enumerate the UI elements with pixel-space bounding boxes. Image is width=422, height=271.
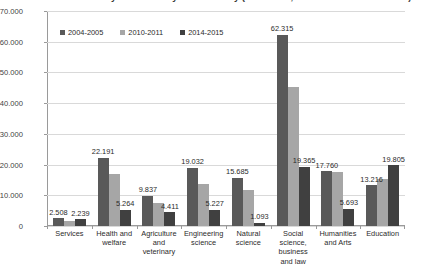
- bar: [164, 212, 175, 226]
- bar: [377, 179, 388, 226]
- bar-data-label: 5.264: [116, 199, 135, 208]
- bar-data-label: 62.315: [271, 24, 294, 33]
- bar-group-bars: [316, 11, 361, 226]
- bar: [232, 178, 243, 226]
- bar-data-label: 9.837: [139, 185, 158, 194]
- x-axis-category-label: Education: [360, 229, 405, 271]
- bar-group-bars: [92, 11, 137, 226]
- bar-data-label: 19.032: [181, 157, 204, 166]
- bar: [53, 218, 64, 226]
- bar-group-bars: [226, 11, 271, 226]
- y-axis-tick-label: 60.000: [0, 38, 23, 47]
- y-axis-tick-label: 20.000: [0, 161, 23, 170]
- bar: [277, 35, 288, 226]
- bar: [321, 171, 332, 226]
- bar-data-label: 19.805: [382, 155, 405, 164]
- bar: [366, 185, 377, 226]
- bar-group: 2.5082.239: [47, 11, 92, 226]
- bar: [64, 221, 75, 226]
- bar-group-bars: [47, 11, 92, 226]
- bar-chart: Graduates from tertiary education by fie…: [0, 0, 422, 271]
- bar-data-label: 2.508: [49, 208, 68, 217]
- bar-group-bars: [271, 11, 316, 226]
- bar: [388, 165, 399, 226]
- bar-data-label: 15.685: [226, 167, 249, 176]
- x-axis-category-label: Social science, business and law: [271, 229, 316, 271]
- bar-data-label: 4.411: [161, 202, 179, 211]
- y-axis-tick-label: 50.000: [0, 68, 23, 77]
- bar-data-label: 19.365: [293, 156, 316, 165]
- x-axis-category-label: Natural science: [226, 229, 271, 271]
- bar-group-bars: [181, 11, 226, 226]
- y-axis-tick-label: 70.000: [0, 7, 23, 16]
- bar-group-bars: [360, 11, 405, 226]
- bar-group: 17.7605.693: [316, 11, 361, 226]
- bar: [343, 209, 354, 226]
- x-axis-category-label: Services: [47, 229, 92, 271]
- bar: [120, 210, 131, 226]
- plot-area: 70.00060.00050.00040.00030.00020.00010.0…: [47, 11, 405, 226]
- bar-group: 13.21619.805: [360, 11, 405, 226]
- bar: [209, 210, 220, 226]
- y-axis-tick-label: 40.000: [0, 99, 23, 108]
- bar-data-label: 5.693: [340, 198, 359, 207]
- bar: [187, 168, 198, 226]
- bar-data-label: 5.227: [205, 199, 224, 208]
- bar-data-label: 2.239: [71, 209, 90, 218]
- bar-group: 62.31519.365: [271, 11, 316, 226]
- bar-group: 19.0325.227: [181, 11, 226, 226]
- bar-data-label: 1.093: [250, 212, 269, 221]
- chart-title: Graduates from tertiary education by fie…: [0, 0, 422, 2]
- y-axis-tick-label: 30.000: [0, 130, 23, 139]
- bar-data-label: 13.216: [360, 175, 383, 184]
- bar: [254, 223, 265, 226]
- bar: [142, 196, 153, 226]
- x-axis-category-label: Humanities and Arts: [316, 229, 361, 271]
- bar: [98, 158, 109, 226]
- bar-data-label: 17.760: [316, 161, 339, 170]
- bar-groups: 2.5082.23922.1915.2649.8374.41119.0325.2…: [47, 11, 405, 226]
- y-axis-tick-label: 10.000: [0, 191, 23, 200]
- x-axis-labels: ServicesHealth and welfareAgriculture an…: [47, 229, 405, 271]
- bar-group: 15.6851.093: [226, 11, 271, 226]
- y-axis-tick-label: 0: [0, 222, 23, 231]
- bar-data-label: 22.191: [92, 147, 115, 156]
- x-axis-category-label: Agriculture and veterinary: [137, 229, 182, 271]
- bar-group: 9.8374.411: [137, 11, 182, 226]
- x-axis-category-label: Health and welfare: [92, 229, 137, 271]
- bar-group: 22.1915.264: [92, 11, 137, 226]
- x-axis-category-label: Engineering science: [181, 229, 226, 271]
- bar: [299, 167, 310, 226]
- bar: [75, 219, 86, 226]
